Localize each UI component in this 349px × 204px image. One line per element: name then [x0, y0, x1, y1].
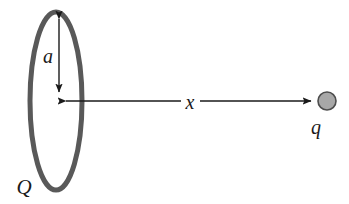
physics-diagram-figure: a x Q q: [0, 0, 349, 204]
point-charge-marker: [318, 92, 336, 110]
diagram-background: [0, 0, 349, 204]
distance-label: x: [185, 91, 195, 113]
diagram-canvas: a x Q q: [0, 0, 349, 204]
point-charge-label: q: [311, 116, 321, 139]
ring-charge-label: Q: [16, 175, 31, 199]
radius-label: a: [43, 45, 53, 67]
